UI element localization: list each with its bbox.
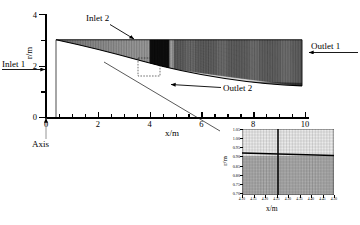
x-axis-label: x/m <box>165 128 179 138</box>
inset-mesh-region <box>242 129 334 195</box>
inset-x-tick-label-6: 4.40 <box>305 197 317 201</box>
y-tick-minor-3 <box>41 40 45 41</box>
x-tick-label-4: 4 <box>142 119 158 129</box>
x-tick-0.5 <box>59 114 60 118</box>
inset-x-tick-7 <box>323 195 324 198</box>
x-tick-1 <box>72 114 73 118</box>
inset-x-tick-8 <box>334 195 335 198</box>
inset-y-tick-3 <box>240 156 243 157</box>
x-tick-8.5 <box>266 114 267 118</box>
inset-x-tick-label-3: 4.25 <box>271 197 283 201</box>
inlet2-label: Inlet 2 <box>86 14 109 23</box>
x-tick-label-2: 2 <box>90 119 106 129</box>
inset-y-tick-0 <box>240 129 243 130</box>
inset-x-tick-5 <box>300 195 301 198</box>
inset-x-tick-label-2: 4.20 <box>259 197 271 201</box>
y-axis-line <box>45 14 47 118</box>
mesh-svg <box>46 14 308 117</box>
x-tick-9 <box>279 114 280 118</box>
x-tick-6 <box>201 112 202 118</box>
x-tick-3 <box>124 114 125 118</box>
x-tick-7.5 <box>240 114 241 118</box>
inset-x-tick-label-4: 4.30 <box>282 197 294 201</box>
inset-x-tick-label-7: 4.45 <box>317 197 329 201</box>
y-axis-label: r/m <box>24 47 34 60</box>
inlet1-label: Inlet 1 <box>2 60 25 69</box>
inset-x-tick-2 <box>265 195 266 198</box>
y-tick-4 <box>39 14 45 15</box>
x-tick-2 <box>98 112 99 118</box>
inset-y-tick-label-1: 1.00 <box>226 136 240 141</box>
outlet1-label: Outlet 1 <box>311 42 340 51</box>
inset-x-tick-label-8: 4.50 <box>328 197 340 201</box>
x-tick-label-0: 0 <box>38 119 54 129</box>
inset-x-tick-label-1: 4.15 <box>248 197 260 201</box>
inset-y-tick-5 <box>240 175 243 176</box>
x-tick-label-6: 6 <box>193 119 209 129</box>
inset-y-tick-label-6: 0.75 <box>226 182 240 187</box>
figure-canvas: 4 2 0 0246810 r/m x/m Inlet 2 Inlet 1 Ou… <box>0 0 360 225</box>
y-tick-minor-1 <box>41 91 45 92</box>
inset-y-tick-6 <box>240 184 243 185</box>
y-tick-label-4: 4 <box>25 10 37 20</box>
inset-y-tick-label-5: 0.80 <box>226 173 240 178</box>
y-tick-label-2: 2 <box>25 61 37 71</box>
inset-x-tick-6 <box>311 195 312 198</box>
inset-detail-plot: 1.051.000.950.900.850.800.750.70 4.104.1… <box>214 127 348 215</box>
inset-x-tick-4 <box>288 195 289 198</box>
inset-y-tick-label-0: 1.05 <box>226 127 240 132</box>
x-tick-9.5 <box>292 114 293 118</box>
inset-mesh-svg <box>242 129 334 195</box>
inset-y-axis-label: r/m <box>221 156 229 166</box>
x-tick-1.5 <box>85 114 86 118</box>
inset-x-axis-label: x/m <box>266 204 278 213</box>
inset-y-tick-label-2: 0.95 <box>226 145 240 150</box>
x-tick-0 <box>46 112 47 118</box>
x-tick-5.5 <box>188 114 189 118</box>
x-tick-5 <box>176 114 177 118</box>
inset-y-tick-label-7: 0.70 <box>226 191 240 196</box>
inset-x-tick-0 <box>242 195 243 198</box>
inset-y-tick-2 <box>240 147 243 148</box>
axis-label: Axis <box>32 140 49 149</box>
inset-y-tick-4 <box>240 166 243 167</box>
inset-y-tick-1 <box>240 138 243 139</box>
x-tick-3.5 <box>137 114 138 118</box>
x-tick-4.5 <box>163 114 164 118</box>
x-tick-2.5 <box>111 114 112 118</box>
x-tick-8 <box>253 112 254 118</box>
inset-x-tick-label-0: 4.10 <box>236 197 248 201</box>
x-tick-4 <box>150 112 151 118</box>
mesh-region <box>46 14 308 117</box>
outlet2-label: Outlet 2 <box>223 84 252 93</box>
x-tick-10 <box>305 112 306 118</box>
y-tick-2 <box>39 66 45 67</box>
y-tick-label-0: 0 <box>25 112 37 122</box>
x-tick-7 <box>227 114 228 118</box>
inset-x-tick-1 <box>254 195 255 198</box>
inset-x-tick-label-5: 4.35 <box>294 197 306 201</box>
x-tick-6.5 <box>214 114 215 118</box>
inset-y-tick-7 <box>240 193 243 194</box>
inset-x-tick-3 <box>277 195 278 198</box>
